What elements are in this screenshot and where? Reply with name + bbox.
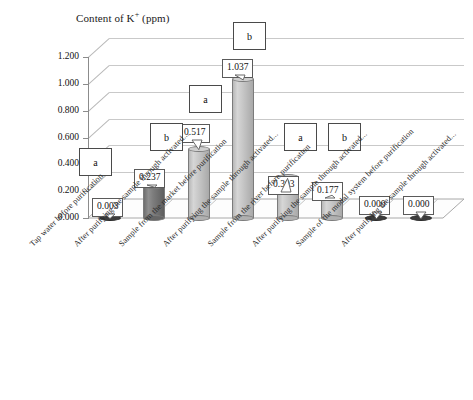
group-letter-box: a	[189, 85, 222, 113]
group-letter-box: a	[79, 148, 112, 176]
chart-container: Content of K+ (ppm) 0.0000.2000.4000.600…	[0, 0, 473, 400]
group-letter-box: b	[233, 22, 266, 50]
